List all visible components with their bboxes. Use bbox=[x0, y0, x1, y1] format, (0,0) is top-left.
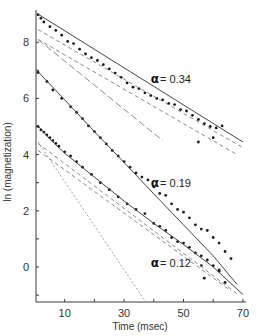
series-line bbox=[38, 150, 231, 291]
data-point bbox=[203, 277, 206, 280]
data-point bbox=[215, 127, 218, 130]
data-point bbox=[200, 228, 203, 231]
alpha-value: = 0.12 bbox=[160, 257, 191, 269]
data-point bbox=[60, 34, 63, 37]
data-point bbox=[191, 114, 194, 117]
data-point bbox=[194, 223, 197, 226]
series-layer bbox=[37, 13, 243, 300]
series-line bbox=[38, 39, 163, 140]
data-point bbox=[230, 257, 233, 260]
data-point bbox=[221, 125, 224, 128]
data-point bbox=[158, 192, 161, 195]
data-point bbox=[206, 229, 209, 232]
x-axis-title: Time (msec) bbox=[112, 321, 167, 332]
series-line bbox=[38, 72, 237, 285]
data-point bbox=[90, 56, 93, 59]
alpha-symbol: α bbox=[151, 72, 159, 86]
data-point bbox=[144, 212, 147, 215]
data-point bbox=[141, 176, 144, 179]
y-tick-label: 0 bbox=[23, 261, 29, 273]
data-point bbox=[108, 68, 111, 71]
series-line bbox=[38, 39, 237, 154]
data-point bbox=[173, 103, 176, 106]
data-point bbox=[72, 42, 75, 45]
data-point bbox=[206, 259, 209, 262]
series-line bbox=[38, 30, 243, 148]
data-point bbox=[218, 242, 221, 245]
series-line bbox=[38, 143, 237, 293]
y-tick-label: 2 bbox=[23, 205, 29, 217]
data-point bbox=[197, 118, 200, 121]
y-tick-label: 6 bbox=[23, 92, 29, 104]
data-point bbox=[149, 94, 152, 97]
data-point bbox=[78, 48, 81, 51]
data-point bbox=[224, 250, 227, 253]
x-tick-label: 70 bbox=[237, 307, 249, 319]
alpha-annotation: α= 0.34 bbox=[151, 72, 191, 86]
data-point bbox=[212, 136, 215, 139]
x-tick-label: 10 bbox=[59, 307, 71, 319]
data-point bbox=[66, 40, 69, 43]
alpha-value: = 0.19 bbox=[160, 177, 191, 189]
data-point bbox=[96, 59, 99, 62]
data-point bbox=[176, 208, 179, 211]
data-point bbox=[54, 29, 57, 32]
data-point bbox=[132, 86, 135, 89]
alpha-value: = 0.34 bbox=[160, 73, 191, 85]
series-line bbox=[38, 126, 243, 295]
y-tick-label: 8 bbox=[23, 36, 29, 48]
data-point bbox=[197, 141, 200, 144]
data-point bbox=[188, 216, 191, 219]
data-point bbox=[147, 179, 150, 182]
series-line bbox=[38, 142, 145, 301]
y-axis-title: ln (magnetization) bbox=[2, 122, 13, 201]
alpha-annotation: α= 0.12 bbox=[151, 256, 191, 270]
data-point bbox=[212, 236, 215, 239]
x-tick-label: 30 bbox=[118, 307, 130, 319]
y-tick-label: 4 bbox=[23, 149, 29, 161]
data-point bbox=[144, 91, 147, 94]
data-point bbox=[43, 21, 46, 24]
data-point bbox=[182, 211, 185, 214]
alpha-symbol: α bbox=[151, 176, 159, 190]
data-point bbox=[40, 17, 43, 20]
data-point bbox=[218, 268, 221, 271]
data-point bbox=[84, 53, 87, 56]
x-tick-label: 50 bbox=[177, 307, 189, 319]
data-point bbox=[170, 202, 173, 205]
data-point bbox=[185, 110, 188, 113]
annotations: α= 0.34α= 0.19α= 0.12 bbox=[151, 72, 191, 270]
data-point bbox=[102, 63, 105, 66]
data-point bbox=[126, 82, 129, 85]
data-point bbox=[209, 125, 212, 128]
data-point bbox=[49, 25, 52, 28]
alpha-symbol: α bbox=[151, 256, 159, 270]
alpha-annotation: α= 0.19 bbox=[151, 176, 191, 190]
chart-figure: 1030507002468 α= 0.34α= 0.19α= 0.12 Time… bbox=[0, 0, 260, 336]
data-point bbox=[164, 194, 167, 197]
